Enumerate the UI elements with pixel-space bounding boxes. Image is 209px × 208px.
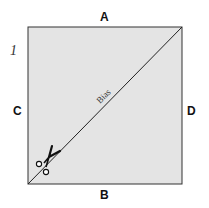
fabric-square-diagram: Bias [0,0,209,208]
